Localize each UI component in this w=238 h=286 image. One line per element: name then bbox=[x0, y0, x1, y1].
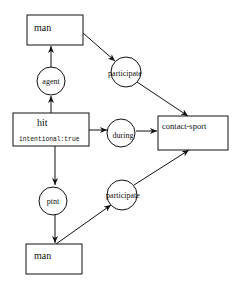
relation-agent: agent bbox=[37, 67, 65, 95]
relation-agent-label: agent bbox=[42, 77, 60, 86]
concept-hit: hit intentional:true bbox=[13, 113, 89, 146]
edge-participate-bottom-contact-sport bbox=[134, 150, 189, 185]
relation-participate-top: participate bbox=[108, 57, 142, 87]
relation-during-label: during bbox=[113, 131, 134, 140]
concept-contact-sport-label: contact-sport bbox=[162, 121, 207, 131]
relation-ptnt: ptnt bbox=[39, 187, 67, 215]
concept-contact-sport: contact-sport bbox=[158, 116, 228, 150]
relation-ptnt-label: ptnt bbox=[47, 197, 60, 206]
concept-man-bottom-label: man bbox=[34, 250, 51, 261]
relation-participate-top-label: participate bbox=[108, 69, 142, 78]
edge-participate-top-contact-sport bbox=[137, 82, 188, 116]
conceptual-graph-diagram: man agent participate hit intentional:tr… bbox=[0, 0, 238, 286]
edge-man-top-participate bbox=[83, 33, 115, 61]
concept-man-top: man bbox=[27, 15, 83, 45]
concept-hit-label: hit bbox=[37, 117, 48, 128]
concept-hit-attribute: intentional:true bbox=[19, 136, 80, 143]
concept-man-bottom: man bbox=[26, 244, 82, 274]
relation-during: during bbox=[107, 119, 135, 147]
relation-participate-bottom-label: participate bbox=[106, 191, 140, 200]
concept-man-top-label: man bbox=[34, 22, 51, 33]
edge-man-bottom-participate bbox=[56, 205, 111, 244]
